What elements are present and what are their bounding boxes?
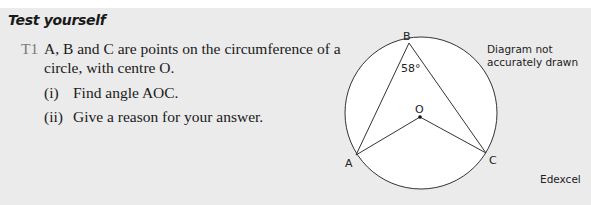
label-a: A [345,157,353,170]
source-label: Edexcel [540,173,581,185]
diagram-note-line-1: Diagram not [487,43,578,56]
circle-theorem-diagram: B 58° O A C [0,0,591,205]
diagram-note-line-2: accurately drawn [487,56,578,69]
label-o: O [415,103,424,116]
diagram-note: Diagram not accurately drawn [487,43,578,69]
label-c: C [489,154,497,167]
angle-label: 58° [401,62,421,75]
label-b: B [403,30,411,43]
